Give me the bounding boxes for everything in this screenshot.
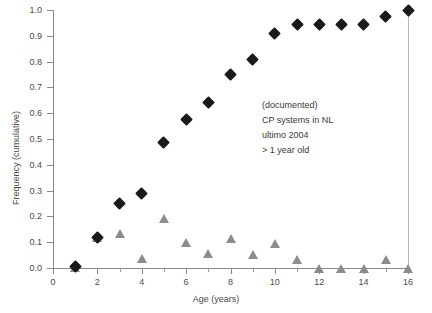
- y-tick-label: 0.2: [0, 212, 42, 221]
- x-tick-label: 16: [393, 278, 423, 287]
- annotation-line: > 1 year old: [262, 144, 309, 158]
- x-axis-label: Age (years): [0, 294, 432, 304]
- x-tick: [186, 269, 187, 274]
- data-point-triangle: [137, 254, 147, 263]
- x-tick: [142, 269, 143, 274]
- x-tick-label: 0: [38, 278, 68, 287]
- x-tick-minor: [120, 269, 121, 272]
- x-tick-minor: [297, 269, 298, 272]
- data-point-triangle: [115, 229, 125, 238]
- data-point-triangle: [159, 214, 169, 223]
- x-tick-label: 12: [304, 278, 334, 287]
- data-point-triangle: [336, 264, 346, 273]
- data-point-triangle: [203, 249, 213, 258]
- x-tick-label: 10: [260, 278, 290, 287]
- y-tick-label: 0.9: [0, 32, 42, 41]
- data-point-triangle: [181, 238, 191, 247]
- y-tick-label: 0.1: [0, 238, 42, 247]
- annotation-line: CP systems in NL: [262, 114, 333, 128]
- y-tick-label: 0.0: [0, 264, 42, 273]
- x-tick-label: 8: [216, 278, 246, 287]
- y-tick-label: 0.3: [0, 187, 42, 196]
- x-tick-minor: [164, 269, 165, 272]
- y-tick-label: 0.7: [0, 83, 42, 92]
- data-point-triangle: [403, 264, 413, 273]
- x-tick: [275, 269, 276, 274]
- annotation-line: (documented): [262, 99, 318, 113]
- y-tick-label: 0.5: [0, 135, 42, 144]
- data-point-triangle: [359, 264, 369, 273]
- x-tick-label: 4: [127, 278, 157, 287]
- x-tick-label: 6: [171, 278, 201, 287]
- y-tick-label: 1.0: [0, 6, 42, 15]
- plot-area: [53, 10, 408, 268]
- vertical-reference-line: [408, 10, 409, 268]
- x-tick-minor: [386, 269, 387, 272]
- x-tick-label: 14: [349, 278, 379, 287]
- chart-container: Frequency (cumulative) Age (years) 0.00.…: [0, 0, 432, 313]
- data-point-triangle: [292, 255, 302, 264]
- y-tick-label: 0.6: [0, 109, 42, 118]
- x-tick: [231, 269, 232, 274]
- data-point-triangle: [226, 234, 236, 243]
- x-tick-minor: [208, 269, 209, 272]
- data-point-triangle: [270, 239, 280, 248]
- x-tick-label: 2: [82, 278, 112, 287]
- x-tick-minor: [253, 269, 254, 272]
- data-point-triangle: [314, 264, 324, 273]
- data-point-triangle: [248, 250, 258, 259]
- annotation-line: ultimo 2004: [262, 129, 309, 143]
- clipped-title: [72, 0, 402, 6]
- y-tick-label: 0.4: [0, 161, 42, 170]
- x-tick: [97, 269, 98, 274]
- x-tick: [53, 269, 54, 274]
- data-point-triangle: [381, 255, 391, 264]
- y-tick-label: 0.8: [0, 58, 42, 67]
